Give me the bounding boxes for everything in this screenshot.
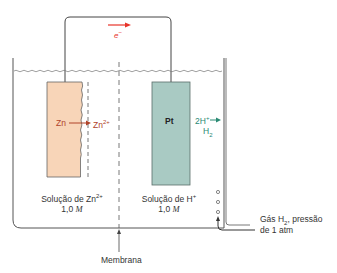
external-wire [65, 17, 171, 82]
platinum-label: Pt [165, 117, 174, 126]
hydrogen-gas-label: H2 [203, 127, 212, 138]
left-solution-label: Solução de Zn2+ [33, 193, 111, 203]
hydrogen-ion-label: 2H+ [195, 115, 209, 125]
right-solution-label: Solução de H+ [132, 193, 206, 203]
zinc-label: Zn [56, 119, 66, 128]
hydrogen-reduction-arrow-icon [210, 118, 221, 123]
gas-label-line2: de 1 atm [260, 226, 293, 235]
left-solution-concentration: 1,0 M [33, 205, 111, 214]
zinc-electrode [47, 82, 83, 177]
membrane-pointer-arrow-icon [117, 229, 121, 252]
gas-bubbles-icon [216, 190, 219, 213]
gas-inlet-tube [226, 58, 250, 225]
right-solution-concentration: 1,0 M [132, 205, 206, 214]
platinum-electrode [152, 82, 190, 185]
liquid-surface [14, 70, 222, 72]
zinc-ion-label: Zn2+ [93, 119, 110, 129]
electron-label: e− [114, 29, 122, 40]
electron-flow-arrow-icon [108, 23, 131, 28]
membrane-label: Membrana [101, 256, 142, 265]
